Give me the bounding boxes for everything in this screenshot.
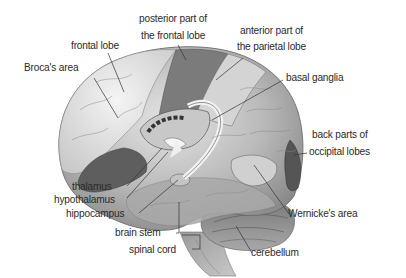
label-brocas-area: Broca's area bbox=[24, 61, 78, 73]
label-anterior-parietal-line1: anterior part of bbox=[240, 24, 303, 36]
label-cerebellum: cerebellum bbox=[251, 246, 299, 258]
label-anterior-parietal-line2: the parietal lobe bbox=[237, 40, 306, 52]
label-thalamus: thalamus bbox=[72, 180, 112, 192]
label-occipital-line1: back parts of bbox=[312, 128, 368, 140]
label-occipital-line2: occipital lobes bbox=[309, 145, 370, 157]
label-posterior-frontal-line2: the frontal lobe bbox=[141, 29, 205, 41]
label-posterior-frontal-line1: posterior part of bbox=[139, 12, 207, 24]
label-hippocampus: hippocampus bbox=[66, 207, 124, 219]
label-brain-stem: brain stem bbox=[115, 226, 160, 238]
label-frontal-lobe: frontal lobe bbox=[71, 39, 119, 51]
label-hypothalamus: hypothalamus bbox=[54, 193, 115, 205]
label-wernickes-area: Wernicke's area bbox=[288, 207, 357, 219]
label-spinal-cord: spinal cord bbox=[129, 243, 176, 255]
label-basal-ganglia: basal ganglia bbox=[286, 71, 343, 83]
